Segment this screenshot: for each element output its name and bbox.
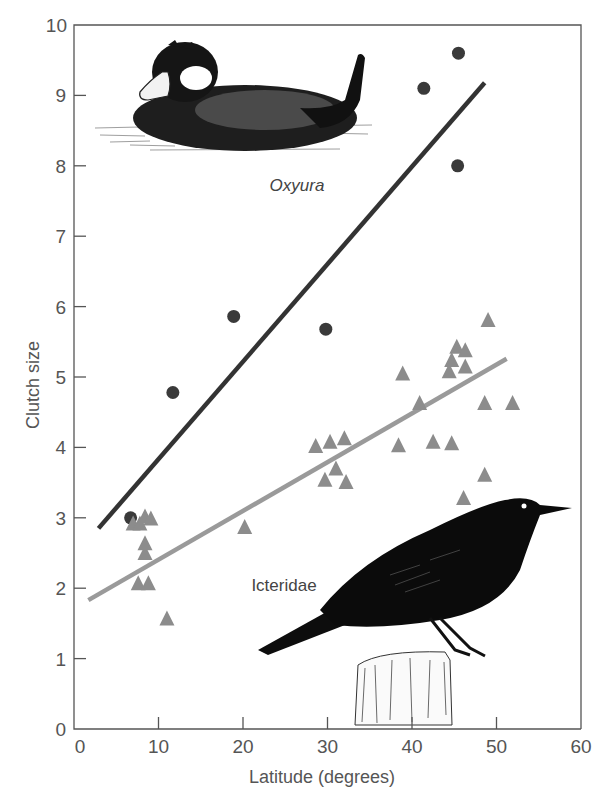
- icteridae-point: [323, 434, 338, 449]
- y-tick-label: 6: [55, 297, 66, 318]
- icteridae-point: [395, 365, 410, 380]
- icteridae-point: [444, 435, 459, 450]
- x-axis-title: Latitude (degrees): [249, 767, 395, 787]
- x-axis: 0102030405060: [75, 717, 592, 757]
- icteridae-point: [339, 474, 354, 489]
- oxyura-point: [417, 82, 430, 95]
- oxyura-point: [166, 386, 179, 399]
- oxyura-label: Oxyura: [270, 176, 325, 195]
- icteridae-point: [426, 434, 441, 449]
- grackle-illustration-icon: [258, 498, 572, 725]
- y-tick-label: 8: [55, 156, 66, 177]
- oxyura-point: [452, 47, 465, 60]
- oxyura-point: [319, 323, 332, 336]
- icteridae-point: [481, 312, 496, 327]
- y-tick-label: 10: [46, 15, 67, 36]
- y-tick-label: 1: [55, 649, 66, 670]
- icteridae-point: [477, 395, 492, 410]
- y-tick-label: 5: [55, 367, 66, 388]
- x-tick-label: 40: [401, 736, 422, 757]
- y-tick-label: 2: [55, 578, 66, 599]
- x-tick-label: 30: [317, 736, 338, 757]
- duck-illustration-icon: [95, 40, 372, 151]
- icteridae-label: Icteridae: [251, 576, 316, 595]
- x-tick-label: 10: [148, 736, 169, 757]
- y-tick-label: 0: [55, 719, 66, 740]
- y-axis: 012345678910: [46, 15, 86, 740]
- y-tick-label: 4: [55, 437, 66, 458]
- icteridae-point: [141, 575, 156, 590]
- x-tick-label: 20: [232, 736, 253, 757]
- icteridae-point: [391, 437, 406, 452]
- icteridae-point: [456, 490, 471, 505]
- icteridae-point: [444, 352, 459, 367]
- y-tick-label: 9: [55, 85, 66, 106]
- x-tick-label: 60: [570, 736, 591, 757]
- icteridae-point: [505, 395, 520, 410]
- icteridae-point: [308, 438, 323, 453]
- icteridae-point: [337, 430, 352, 445]
- y-axis-title: Clutch size: [23, 341, 43, 429]
- oxyura-point: [451, 159, 464, 172]
- icteridae-point: [477, 467, 492, 482]
- oxyura-point: [227, 310, 240, 323]
- icteridae-point: [458, 358, 473, 373]
- x-tick-label: 50: [486, 736, 507, 757]
- clutch-size-chart: 012345678910 0102030405060 Latitude (deg…: [0, 0, 609, 799]
- icteridae-point: [237, 519, 252, 534]
- y-tick-label: 7: [55, 226, 66, 247]
- icteridae-point: [412, 395, 427, 410]
- x-tick-label: 0: [75, 736, 86, 757]
- y-tick-label: 3: [55, 508, 66, 529]
- icteridae-point: [159, 610, 174, 625]
